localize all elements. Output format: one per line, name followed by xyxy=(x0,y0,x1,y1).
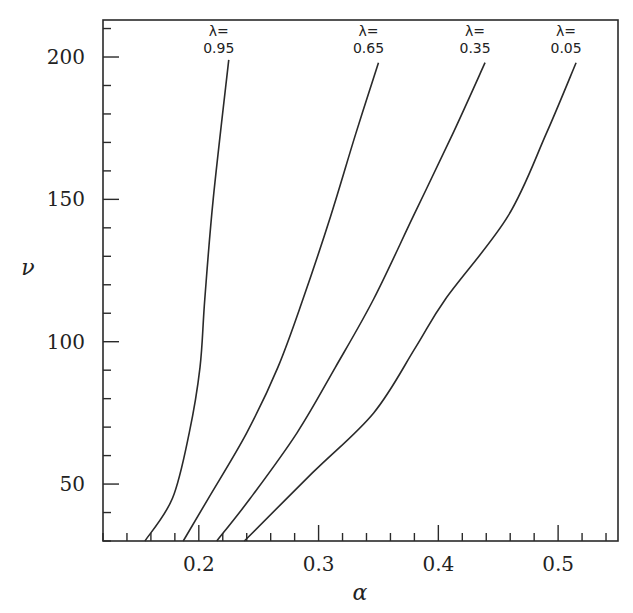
plot-frame xyxy=(103,20,618,541)
series-label-lambda: λ= xyxy=(556,23,576,39)
series-label-lambda: λ= xyxy=(465,23,485,39)
x-axis-tick-labels: 0.20.30.40.5 xyxy=(183,552,574,576)
series-label-value: 0.35 xyxy=(459,40,490,56)
x-tick-label: 0.3 xyxy=(303,552,335,576)
x-axis-ticks xyxy=(103,525,606,541)
series-labels: λ=0.95λ=0.65λ=0.35λ=0.05 xyxy=(203,23,581,56)
series-curve xyxy=(145,60,229,541)
series-curves xyxy=(145,60,576,541)
y-tick-label: 200 xyxy=(47,45,85,69)
y-axis-label: ν xyxy=(21,255,34,280)
series-label-lambda: λ= xyxy=(209,23,229,39)
series-label-value: 0.65 xyxy=(353,40,384,56)
series-label-value: 0.95 xyxy=(203,40,234,56)
y-axis-tick-labels: 50100150200 xyxy=(47,45,85,496)
series-curve xyxy=(183,63,378,541)
series-label-lambda: λ= xyxy=(358,23,378,39)
x-tick-label: 0.2 xyxy=(183,552,215,576)
series-curve xyxy=(244,63,576,541)
y-tick-label: 100 xyxy=(47,330,85,354)
series-label-value: 0.05 xyxy=(550,40,581,56)
x-tick-label: 0.4 xyxy=(422,552,454,576)
y-tick-label: 150 xyxy=(47,187,85,211)
x-tick-label: 0.5 xyxy=(542,552,574,576)
y-axis-ticks xyxy=(103,29,119,541)
x-axis-label: α xyxy=(353,580,368,605)
y-tick-label: 50 xyxy=(60,472,85,496)
line-chart: 0.20.30.40.5 50100150200 λ=0.95λ=0.65λ=0… xyxy=(0,0,633,613)
series-curve xyxy=(217,63,485,541)
